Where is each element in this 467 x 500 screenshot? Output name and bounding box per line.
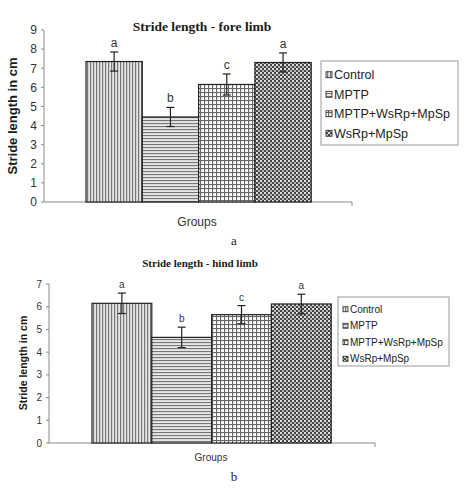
legend-swatch — [326, 72, 332, 78]
chart-title: Stride length - hind limb — [142, 257, 258, 269]
y-tick-label: 4 — [30, 119, 37, 133]
y-tick-label: 1 — [30, 176, 37, 190]
legend-swatch — [343, 340, 348, 345]
y-tick-label: 0 — [36, 438, 42, 449]
significance-label: a — [280, 37, 287, 51]
x-axis-label: Groups — [195, 452, 228, 463]
chart-title: Stride length - fore limb — [133, 19, 272, 34]
figure: Stride length - fore limb Stride length … — [0, 0, 467, 500]
bar-mptp-wsrp-mpsp — [212, 315, 272, 443]
y-tick-label: 5 — [36, 324, 42, 335]
legend-swatch — [343, 307, 348, 312]
y-tick-label: 8 — [30, 42, 37, 56]
y-tick-label: 0 — [30, 195, 37, 209]
legend-label: Control — [350, 304, 382, 315]
y-tick-label: 2 — [36, 392, 42, 403]
y-tick-label: 5 — [30, 100, 37, 114]
legend-label: MPTP+WsRp+MpSp — [334, 107, 450, 121]
legend-item: WsRp+MpSp — [326, 127, 408, 141]
y-tick-label: 2 — [30, 157, 37, 171]
bar-control — [86, 62, 142, 202]
legend-item: MPTP+WsRp+MpSp — [326, 107, 450, 121]
bar-wsrp-mpsp — [271, 304, 331, 443]
bar-mptp — [152, 337, 212, 443]
significance-label: a — [119, 279, 125, 290]
legend-label: MPTP — [334, 88, 369, 102]
y-tick-label: 9 — [30, 23, 37, 37]
y-tick-label: 7 — [36, 279, 42, 290]
bars: abca — [92, 279, 331, 443]
legend-swatch — [326, 130, 332, 136]
legend-swatch — [343, 323, 348, 328]
legend-item: MPTP+WsRp+MpSp — [343, 337, 443, 348]
legend-item: WsRp+MpSp — [343, 353, 410, 364]
significance-label: a — [299, 280, 305, 291]
y-tick-label: 3 — [30, 138, 37, 152]
bar-control — [92, 303, 152, 443]
legend-swatch — [326, 91, 332, 97]
bar-wsrp-mpsp — [255, 62, 311, 202]
y-tick-label: 1 — [36, 415, 42, 426]
y-tick-label: 6 — [30, 81, 37, 95]
chart-fore-limb: Stride length - fore limb Stride length … — [5, 19, 458, 248]
legend: ControlMPTPMPTP+WsRp+MpSpWsRp+MpSp — [321, 61, 458, 145]
bar-mptp — [142, 117, 198, 202]
legend-swatch — [326, 111, 332, 117]
legend-label: MPTP+WsRp+MpSp — [350, 337, 443, 348]
significance-label: c — [224, 58, 230, 72]
y-axis-label: Stride length in cm — [5, 57, 20, 174]
y-tick-label: 6 — [36, 301, 42, 312]
y-axis-label: Stride length in cm — [17, 316, 29, 411]
x-axis-label: Groups — [177, 215, 216, 229]
legend-item: Control — [326, 68, 374, 82]
chart-hind-limb: Stride length - hind limb Stride length … — [17, 257, 449, 484]
y-tick-label: 3 — [36, 369, 42, 380]
significance-label: a — [111, 36, 118, 50]
significance-label: b — [179, 313, 185, 324]
legend-label: Control — [334, 68, 374, 82]
y-tick-label: 7 — [30, 62, 37, 76]
y-tick-label: 4 — [36, 347, 42, 358]
legend-label: MPTP — [350, 320, 378, 331]
legend: ControlMPTPMPTP+WsRp+MpSpWsRp+MpSp — [338, 297, 449, 366]
panel-caption: a — [231, 233, 237, 248]
bars: abca — [86, 36, 311, 202]
legend-label: WsRp+MpSp — [350, 353, 410, 364]
significance-label: c — [239, 292, 244, 303]
legend-swatch — [343, 356, 348, 361]
bar-mptp-wsrp-mpsp — [199, 84, 255, 202]
panel-caption: b — [231, 469, 238, 484]
legend-label: WsRp+MpSp — [334, 127, 408, 141]
significance-label: b — [167, 91, 174, 105]
